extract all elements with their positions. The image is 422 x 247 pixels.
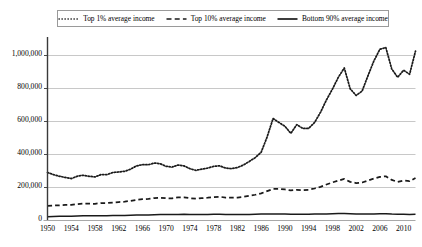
plot-area: 0200,000400,000600,000800,0001,000,00019… [0, 0, 422, 247]
y-axis-tick-label: 400,000 [0, 149, 42, 157]
gridlines [48, 56, 416, 188]
y-axis-tick-label: 600,000 [0, 116, 42, 124]
x-axis-tick-label: 1954 [58, 225, 84, 233]
x-axis-tick-label: 1966 [129, 225, 155, 233]
y-axis-tick-label: 800,000 [0, 83, 42, 91]
x-axis-tick-label: 1998 [319, 225, 345, 233]
y-axis-tick-label: 1,000,000 [0, 50, 42, 58]
x-axis-tick-label: 1994 [296, 225, 322, 233]
x-axis-tick-label: 1982 [224, 225, 250, 233]
series-line [48, 214, 416, 217]
x-axis-tick-label: 1990 [272, 225, 298, 233]
chart-canvas [0, 0, 422, 247]
x-axis-tick-label: 2002 [343, 225, 369, 233]
x-axis-tick-label: 1978 [201, 225, 227, 233]
x-axis-tick-label: 2006 [367, 225, 393, 233]
x-axis-tick-label: 1970 [153, 225, 179, 233]
x-axis-tick-label: 2010 [391, 225, 417, 233]
x-axis-tick-label: 1974 [177, 225, 203, 233]
y-axis-tick-label: 200,000 [0, 182, 42, 190]
x-axis-tick-label: 1962 [106, 225, 132, 233]
series-line [48, 48, 416, 179]
x-axis-tick-label: 1958 [82, 225, 108, 233]
series-line [48, 176, 416, 206]
y-axis-tick-label: 0 [0, 215, 42, 223]
x-axis-tick-label: 1986 [248, 225, 274, 233]
x-axis-tick-label: 1950 [35, 225, 61, 233]
income-inequality-chart: Top 1% average incomeTop 10% average inc… [0, 0, 422, 247]
